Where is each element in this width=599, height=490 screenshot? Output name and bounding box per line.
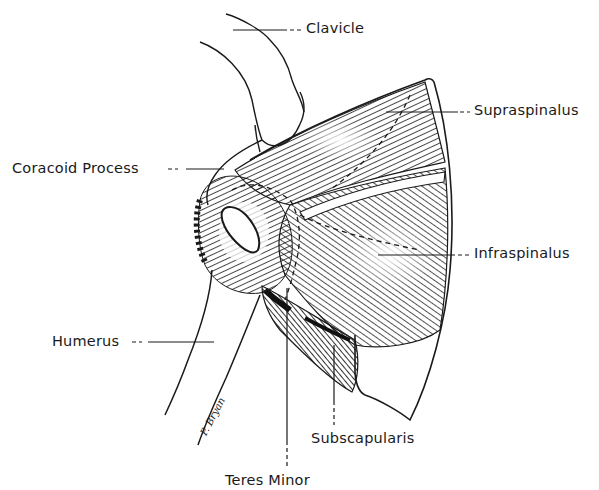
label-supraspinatus: Supraspinalus	[474, 102, 579, 118]
label-subscapularis: Subscapularis	[311, 430, 414, 446]
clavicle-outline	[200, 14, 304, 152]
label-clavicle: Clavicle	[306, 20, 364, 36]
label-humerus: Humerus	[52, 333, 119, 349]
anatomy-figure: Clavicle Supraspinalus Coracoid Process …	[0, 0, 599, 490]
label-teres-minor: Teres Minor	[225, 472, 310, 488]
label-infraspinatus: Infraspinalus	[474, 245, 570, 261]
label-coracoid-process: Coracoid Process	[12, 160, 139, 176]
